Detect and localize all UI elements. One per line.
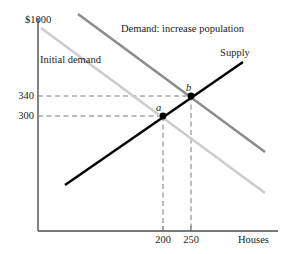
equilibrium-point-a-marker [160,113,167,120]
y-tick-label-340: 340 [8,90,34,101]
equilibrium-point-b-label: b [186,82,191,93]
x-axis-title: Houses [238,234,269,245]
x-tick-label-250: 250 [176,234,206,245]
supply-label: Supply [215,47,255,58]
chart-canvas [0,0,285,254]
increase-demand-curve [78,14,265,152]
initial-demand-label: Initial demand [40,54,84,65]
increase-demand-label: Demand: increase population [121,23,211,34]
guide-lines-point-a [38,116,163,228]
y-tick-label-300: 300 [8,110,34,121]
supply-curve [65,62,243,185]
y-axis-unit-label: $1000 [25,14,51,25]
equilibrium-point-a-label: a [156,102,161,113]
x-axis-ticks [163,226,191,231]
x-tick-label-200: 200 [148,234,178,245]
supply-demand-chart: $1000 340 300 200 250 Houses Initial dem… [0,0,285,254]
equilibrium-point-b-marker [188,93,195,100]
